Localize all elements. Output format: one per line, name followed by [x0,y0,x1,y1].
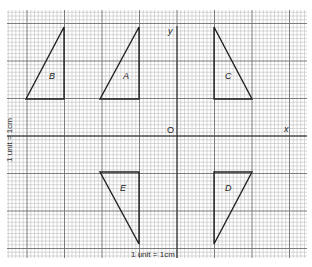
grid-minor-lines [7,10,307,258]
coordinate-grid-diagram [0,0,312,267]
shape-label-E: E [120,184,126,193]
y-axis-label: y [168,27,173,36]
scale-label-side: 1 unit = 1cm [6,118,14,162]
shape-label-A: A [123,72,129,81]
shape-label-B: B [49,72,55,81]
origin-label: O [167,126,174,135]
grid-major-lines [7,10,307,258]
shape-label-C: C [225,72,232,81]
shape-label-D: D [225,184,232,193]
triangle-B [26,27,64,99]
x-axis-label: x [284,125,289,134]
scale-label-bottom: 1 unit = 1cm [131,251,175,259]
